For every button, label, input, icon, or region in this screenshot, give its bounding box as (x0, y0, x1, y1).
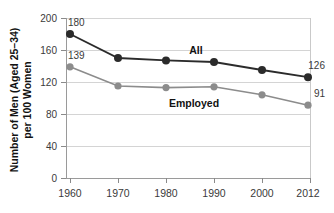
series-label-employed: Employed (169, 97, 219, 109)
chart-figure: 200 160 120 80 40 0 1960 1970 1980 1990 … (0, 0, 334, 213)
data-point-employed-1970 (114, 82, 121, 89)
data-point-employed-1990 (210, 83, 217, 90)
series-label-all: All (189, 44, 203, 56)
y-axis-title-line2: per 100 Women (21, 61, 33, 138)
point-label-all-1960: 180 (68, 17, 85, 28)
data-point-employed-1960 (66, 63, 73, 70)
data-point-all-1980 (162, 56, 170, 64)
x-tick-label-2012: 2012 (296, 187, 320, 199)
data-point-all-1990 (210, 58, 218, 66)
y-tick-label-80: 80 (46, 109, 58, 120)
series-inline-labels: All Employed (169, 44, 219, 109)
x-tick-labels: 1960 1970 1980 1990 2000 2012 (58, 187, 320, 199)
data-point-all-2012 (304, 73, 312, 81)
point-label-employed-2012: 91 (314, 88, 326, 99)
data-point-employed-2012 (304, 102, 311, 109)
data-point-employed-2000 (258, 91, 265, 98)
line-chart: 200 160 120 80 40 0 1960 1970 1980 1990 … (0, 0, 334, 213)
y-tick-label-200: 200 (40, 13, 57, 24)
y-axis-title: Number of Men (Aged 25–34) per 100 Women (8, 28, 33, 173)
x-tick-label-2000: 2000 (250, 187, 274, 199)
point-label-employed-1960: 139 (68, 50, 85, 61)
y-axis-ticks (61, 18, 66, 178)
data-point-all-1970 (114, 54, 122, 62)
x-tick-label-1960: 1960 (58, 187, 82, 199)
data-point-all-2000 (258, 66, 266, 74)
y-tick-label-120: 120 (40, 77, 57, 88)
x-tick-label-1990: 1990 (202, 187, 226, 199)
gridlines (66, 18, 310, 146)
y-tick-label-0: 0 (51, 173, 57, 184)
point-label-all-2012: 126 (308, 60, 325, 71)
x-tick-label-1980: 1980 (154, 187, 178, 199)
y-axis-title-line1: Number of Men (Aged 25–34) (8, 28, 20, 173)
data-point-all-1960 (66, 30, 74, 38)
data-point-employed-1980 (162, 84, 169, 91)
y-tick-labels: 200 160 120 80 40 0 (40, 13, 57, 184)
y-tick-label-160: 160 (40, 45, 57, 56)
x-tick-label-1970: 1970 (106, 187, 130, 199)
x-axis-ticks (70, 178, 310, 183)
y-tick-label-40: 40 (46, 141, 58, 152)
